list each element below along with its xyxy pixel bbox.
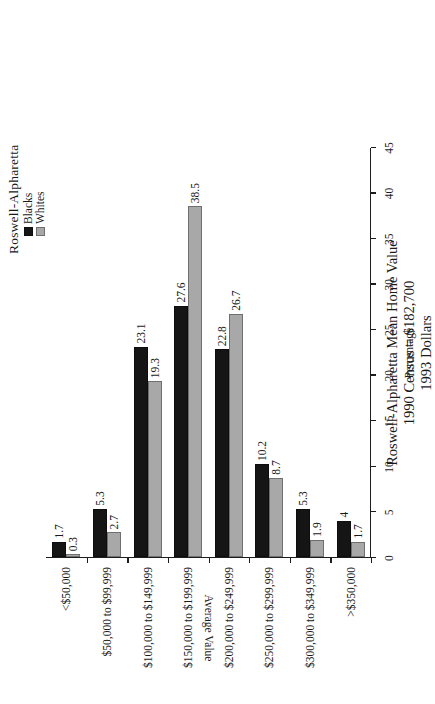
category-axis-label: $250,000 to $299,999 bbox=[263, 567, 275, 668]
bar-blacks[interactable]: 22.8 bbox=[215, 349, 229, 557]
bar-value-label: 5.3 bbox=[297, 491, 309, 505]
bar-value-label: 4 bbox=[338, 512, 350, 518]
chart-legend: Blacks Whites bbox=[22, 191, 47, 236]
category-axis-label: $200,000 to $249,999 bbox=[223, 567, 235, 668]
value-axis-tick bbox=[371, 329, 376, 330]
category-axis-tick bbox=[330, 558, 331, 563]
category-axis-label: $300,000 to $349,999 bbox=[304, 567, 316, 668]
legend-item-whites: Whites bbox=[34, 191, 46, 236]
category-axis-label: $150,000 to $199,999 bbox=[182, 567, 194, 668]
bar-blacks[interactable]: 5.3 bbox=[296, 509, 310, 557]
bar-value-label: 2.7 bbox=[108, 515, 120, 529]
category-axis-tick bbox=[371, 558, 372, 563]
bar-whites[interactable]: 1.7 bbox=[351, 542, 365, 557]
bar-blacks[interactable]: 1.7 bbox=[52, 542, 66, 557]
bar-value-label: 1.7 bbox=[53, 524, 65, 538]
value-axis-tick bbox=[371, 283, 376, 284]
bar-value-label: 22.8 bbox=[216, 326, 228, 346]
category-axis-label: $50,000 to $99,999 bbox=[101, 567, 113, 656]
category-axis-label: $100,000 to $149,999 bbox=[142, 567, 154, 668]
chart-title-line-2: 1990 Census = $182,700 bbox=[401, 148, 418, 558]
bar-value-label: 8.7 bbox=[270, 460, 282, 474]
value-axis-line bbox=[370, 148, 371, 558]
bar-blacks[interactable]: 5.3 bbox=[93, 509, 107, 557]
bar-value-label: 19.3 bbox=[149, 358, 161, 378]
bar-value-label: 1.7 bbox=[352, 524, 364, 538]
legend-swatch-whites-icon bbox=[36, 227, 45, 236]
legend-label-blacks: Blacks bbox=[22, 193, 34, 224]
bar-blacks[interactable]: 4 bbox=[337, 521, 351, 557]
bar-blacks[interactable]: 23.1 bbox=[134, 347, 148, 557]
bar-blacks[interactable]: 27.6 bbox=[174, 306, 188, 557]
chart-title-line-1: Roswell-Alpharetta Mean Home Value bbox=[384, 148, 401, 558]
legend-swatch-blacks-icon bbox=[24, 227, 33, 236]
bar-value-label: 27.6 bbox=[175, 282, 187, 302]
legend-label-whites: Whites bbox=[34, 191, 46, 224]
category-axis-tick bbox=[127, 558, 128, 563]
value-axis-tick bbox=[371, 466, 376, 467]
legend-item-blacks: Blacks bbox=[22, 191, 34, 236]
chart-title: Roswell-Alpharetta Mean Home Value 1990 … bbox=[384, 148, 435, 558]
bar-value-label: 0.3 bbox=[67, 537, 79, 551]
category-axis-title: Average Value bbox=[203, 578, 215, 678]
bar-value-label: 38.5 bbox=[189, 183, 201, 203]
chart-title-line-3: 1993 Dollars bbox=[418, 148, 435, 558]
bar-whites[interactable]: 19.3 bbox=[148, 381, 162, 557]
category-axis-tick bbox=[249, 558, 250, 563]
value-axis-tick bbox=[371, 374, 376, 375]
bar-whites[interactable]: 8.7 bbox=[269, 478, 283, 557]
bar-value-label: 5.3 bbox=[94, 491, 106, 505]
category-axis-tick bbox=[209, 558, 210, 563]
bar-blacks[interactable]: 10.2 bbox=[255, 464, 269, 557]
bar-value-label: 1.9 bbox=[311, 522, 323, 536]
category-axis-tick bbox=[290, 558, 291, 563]
value-axis-tick bbox=[371, 511, 376, 512]
bar-whites[interactable]: 26.7 bbox=[229, 314, 243, 557]
bar-whites[interactable]: 38.5 bbox=[188, 206, 202, 557]
value-axis-tick bbox=[371, 147, 376, 148]
bar-whites[interactable]: 0.3 bbox=[66, 554, 80, 557]
category-axis-label: <$50,000 bbox=[60, 567, 72, 611]
bar-value-label: 10.2 bbox=[256, 441, 268, 461]
bar-value-label: 26.7 bbox=[230, 291, 242, 311]
category-axis-tick bbox=[168, 558, 169, 563]
bar-whites[interactable]: 2.7 bbox=[107, 532, 121, 557]
value-axis-tick bbox=[371, 420, 376, 421]
bar-whites[interactable]: 1.9 bbox=[310, 540, 324, 557]
category-axis-label: >$350,000 bbox=[345, 567, 357, 617]
category-axis-tick bbox=[87, 558, 88, 563]
value-axis-tick bbox=[371, 192, 376, 193]
bar-value-label: 23.1 bbox=[135, 323, 147, 343]
plot-area: Percentage Average Value 051015202530354… bbox=[46, 148, 371, 558]
value-axis-tick bbox=[371, 238, 376, 239]
